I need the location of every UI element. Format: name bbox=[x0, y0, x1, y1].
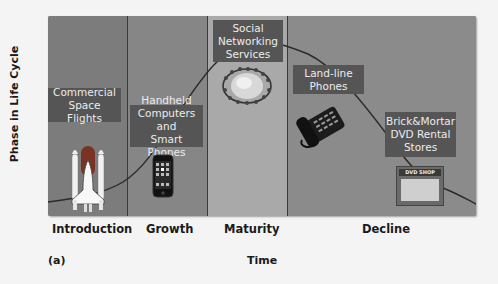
shop-window bbox=[401, 179, 439, 201]
label-brick-mortar-dvd: Brick&Mortar DVD Rental Stores bbox=[385, 112, 456, 157]
label-land-line-phones: Land-line Phones bbox=[293, 65, 364, 94]
figure-label: (a) bbox=[48, 254, 65, 267]
label-handheld-computers: Handheld Computers and Smart Phones bbox=[130, 105, 203, 147]
label-line: Commercial bbox=[53, 86, 116, 99]
globe-people-icon bbox=[220, 66, 274, 106]
label-line: Brick&Mortar bbox=[386, 115, 455, 128]
label-line: Stores bbox=[404, 141, 437, 154]
label-line: Services bbox=[226, 48, 270, 61]
label-line: Space Flights bbox=[51, 99, 118, 125]
label-line: Handheld bbox=[141, 94, 191, 107]
phase-label-maturity: Maturity bbox=[224, 222, 280, 236]
phase-label-growth: Growth bbox=[146, 222, 193, 236]
smartphone-icon bbox=[152, 154, 174, 198]
space-shuttle-icon bbox=[64, 140, 112, 216]
label-commercial-space-flights: Commercial Space Flights bbox=[48, 88, 121, 122]
y-axis-label: Phase in Life Cycle bbox=[8, 46, 21, 162]
label-line: Computers and bbox=[133, 107, 200, 133]
label-line: Networking bbox=[218, 35, 278, 48]
label-line: Land-line bbox=[304, 67, 352, 80]
life-cycle-panel: Commercial Space Flights Handheld Comput… bbox=[48, 16, 476, 216]
label-line: DVD Rental bbox=[391, 128, 451, 141]
phase-label-decline: Decline bbox=[362, 222, 410, 236]
label-line: Phones bbox=[310, 80, 348, 93]
dvd-shop-icon: DVD SHOP bbox=[396, 166, 444, 206]
phase-label-introduction: Introduction bbox=[52, 222, 132, 236]
shop-sign: DVD SHOP bbox=[399, 169, 441, 176]
label-line: Social bbox=[232, 22, 263, 35]
label-social-networking: Social Networking Services bbox=[213, 20, 283, 62]
x-axis-label: Time bbox=[247, 254, 277, 267]
desk-phone-icon bbox=[296, 100, 348, 150]
